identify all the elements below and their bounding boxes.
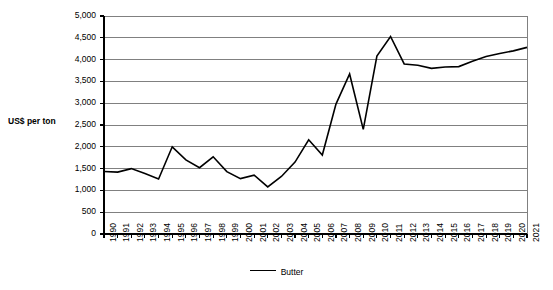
legend-line-marker xyxy=(250,270,276,271)
chart-legend: Butter xyxy=(0,266,553,277)
legend-label-butter: Butter xyxy=(281,267,304,277)
data-series-butter xyxy=(104,36,527,186)
line-chart: US$ per ton 05001,0001,5002,0002,5003,00… xyxy=(0,0,553,290)
plot-area xyxy=(0,0,553,290)
